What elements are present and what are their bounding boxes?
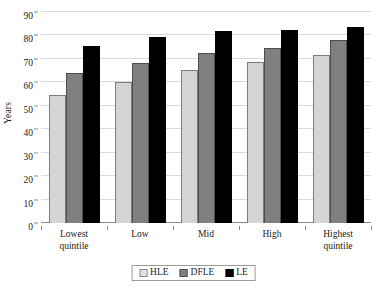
legend-swatch-hle — [139, 269, 147, 277]
x-tick-3 — [239, 226, 240, 230]
bar-le-lowest-quintile — [83, 46, 100, 223]
x-tick-label-line2: quintile — [305, 240, 371, 252]
y-tick-10 — [34, 199, 38, 200]
bar-group-mid — [173, 12, 239, 223]
legend-label-hle: HLE — [150, 268, 168, 278]
legend-swatch-le — [225, 269, 233, 277]
x-tick-label-line1: Low — [131, 229, 148, 239]
y-axis-tick-labels: 0102030405060708090 — [18, 12, 38, 223]
y-axis-title: Years — [0, 0, 16, 225]
x-tick-label-line1: Mid — [198, 229, 214, 239]
legend-item-hle[interactable]: HLE — [139, 268, 168, 278]
x-tick-label-lowest-quintile: Lowestquintile — [41, 226, 107, 260]
bar-le-mid — [215, 31, 232, 223]
bar-group-highest-quintile — [305, 12, 371, 223]
y-tick-20 — [34, 176, 38, 177]
y-tick-30 — [34, 152, 38, 153]
bar-group-high — [239, 12, 305, 223]
x-tick-label-highest-quintile: Highestquintile — [305, 226, 371, 260]
y-tick-70 — [34, 58, 38, 59]
legend-swatch-dfle — [180, 269, 188, 277]
bar-group-low — [107, 12, 173, 223]
bar-groups — [41, 12, 371, 223]
x-tick-label-high: High — [239, 226, 305, 260]
bar-dfle-mid — [198, 53, 215, 223]
x-tick-0 — [41, 226, 42, 230]
y-tick-0 — [34, 223, 38, 224]
y-axis-title-text: Years — [3, 101, 13, 123]
bar-hle-mid — [181, 70, 198, 223]
x-tick-label-line1: High — [263, 229, 282, 239]
bar-hle-low — [115, 82, 132, 223]
y-tick-60 — [34, 82, 38, 83]
bar-chart: Years 0102030405060708090 Lowestquintile… — [0, 0, 387, 292]
legend-label-dfle: DFLE — [191, 268, 215, 278]
legend-item-dfle[interactable]: DFLE — [180, 268, 215, 278]
bar-hle-lowest-quintile — [49, 95, 66, 223]
y-tick-90 — [34, 12, 38, 13]
legend-label-le: LE — [236, 268, 248, 278]
bar-le-low — [149, 37, 166, 223]
chart-legend: HLEDFLELE — [131, 265, 256, 281]
x-tick-5 — [371, 226, 372, 230]
bar-hle-highest-quintile — [313, 55, 330, 223]
x-tick-1 — [107, 226, 108, 230]
y-tick-50 — [34, 105, 38, 106]
x-tick-label-line1: Lowest — [60, 229, 88, 239]
x-tick-4 — [305, 226, 306, 230]
x-tick-label-low: Low — [107, 226, 173, 260]
bar-group-lowest-quintile — [41, 12, 107, 223]
bar-dfle-high — [264, 48, 281, 223]
bar-hle-high — [247, 62, 264, 223]
bar-dfle-low — [132, 63, 149, 223]
y-tick-80 — [34, 35, 38, 36]
bar-dfle-highest-quintile — [330, 40, 347, 223]
y-tick-40 — [34, 129, 38, 130]
x-tick-label-mid: Mid — [173, 226, 239, 260]
plot-area — [41, 12, 371, 223]
bar-le-high — [281, 30, 298, 223]
x-tick-2 — [173, 226, 174, 230]
legend-item-le[interactable]: LE — [225, 268, 248, 278]
x-tick-label-line2: quintile — [41, 240, 107, 252]
bar-dfle-lowest-quintile — [66, 73, 83, 223]
x-tick-label-line1: Highest — [323, 229, 353, 239]
x-axis-tick-labels: LowestquintileLowMidHighHighestquintile — [41, 226, 371, 260]
bar-le-highest-quintile — [347, 27, 364, 223]
